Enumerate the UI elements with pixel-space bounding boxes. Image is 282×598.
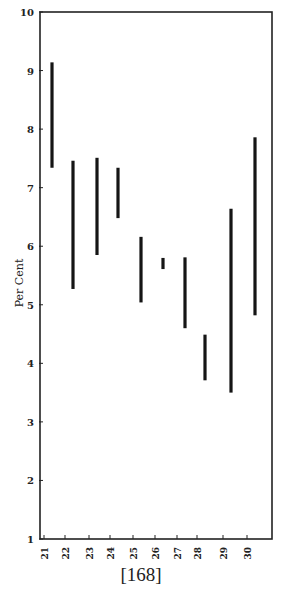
x-tick-label: 1926 [151, 547, 161, 560]
range-bar-chart: 12345678910 1921192219231924192519261927… [0, 0, 282, 560]
plot-frame [40, 12, 272, 539]
bars [52, 62, 255, 392]
y-tick-label: 7 [27, 183, 34, 194]
y-tick-label: 9 [27, 66, 34, 77]
x-tick-label: 1927 [173, 547, 183, 560]
y-tick-label: 8 [27, 124, 34, 135]
y-tick-label: 5 [27, 300, 34, 311]
x-tick-label: 1921 [40, 547, 50, 560]
y-axis-label: Per Cent [13, 258, 26, 307]
x-tick-label: 1923 [85, 547, 95, 560]
x-tick-label: 1924 [106, 547, 116, 560]
x-tick-label: 1922 [61, 547, 71, 560]
y-tick-label: 1 [27, 534, 34, 545]
y-tick-label: 6 [27, 241, 34, 252]
x-tick-label: 1928 [193, 547, 203, 560]
x-tick-label: 1930 [243, 547, 253, 560]
y-tick-label: 3 [27, 417, 34, 428]
y-tick-label: 2 [27, 475, 34, 486]
page-number: [168] [0, 564, 282, 586]
y-tick-label: 10 [20, 7, 34, 18]
y-tick-label: 4 [27, 358, 34, 369]
x-tick-label: 1925 [129, 547, 139, 560]
x-tick-label: 1929 [219, 547, 229, 560]
